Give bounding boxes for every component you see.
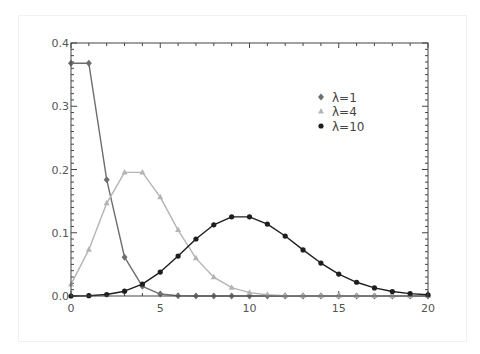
legend-marker-diamond-icon: [318, 94, 324, 101]
series-line: [71, 172, 428, 296]
data-point-marker: [390, 289, 395, 294]
data-point-marker: [247, 214, 252, 219]
data-point-marker: [372, 285, 377, 290]
x-tick-label: 20: [421, 302, 435, 315]
data-point-marker: [336, 271, 341, 276]
x-tick-label: 5: [157, 302, 164, 315]
y-axis-tick-labels: 0.00.10.20.30.4: [52, 37, 70, 303]
data-point-marker: [139, 169, 145, 175]
data-point-marker: [104, 176, 110, 183]
x-tick-label: 10: [243, 302, 257, 315]
data-point-marker: [283, 233, 288, 238]
data-point-marker: [300, 247, 305, 252]
series-line: [71, 63, 428, 296]
data-point-marker: [140, 281, 145, 286]
data-point-marker: [122, 289, 127, 294]
data-point-marker: [176, 253, 181, 258]
data-point-marker: [211, 222, 216, 227]
y-tick-label: 0.4: [52, 37, 70, 50]
x-tick-label: 0: [68, 302, 75, 315]
poisson-chart: 05101520 0.00.10.20.30.4 λ=1λ=4λ=10: [0, 0, 480, 354]
data-point-marker: [122, 169, 128, 175]
data-point-marker: [408, 291, 413, 296]
data-point-marker: [86, 60, 92, 67]
y-tick-label: 0.0: [52, 290, 70, 303]
data-point-marker: [229, 214, 234, 219]
y-tick-label: 0.2: [52, 164, 70, 177]
data-point-marker: [318, 260, 323, 265]
x-axis-tick-labels: 05101520: [68, 302, 436, 315]
y-tick-label: 0.3: [52, 100, 70, 113]
legend: λ=1λ=4λ=10: [318, 91, 364, 134]
legend-label: λ=1: [332, 91, 357, 105]
y-tick-label: 0.1: [52, 227, 70, 240]
legend-label: λ=10: [332, 120, 364, 134]
data-point-marker: [265, 221, 270, 226]
data-point-marker: [158, 269, 163, 274]
data-point-marker: [86, 246, 92, 252]
data-point-marker: [193, 236, 198, 241]
series-layer: [68, 60, 431, 300]
series-2: [68, 169, 431, 298]
legend-marker-circle-icon: [318, 123, 323, 128]
data-point-marker: [354, 280, 359, 285]
legend-marker-triangle-icon: [318, 108, 324, 114]
series-1: [68, 60, 431, 300]
x-tick-label: 15: [332, 302, 346, 315]
legend-label: λ=4: [332, 105, 357, 119]
